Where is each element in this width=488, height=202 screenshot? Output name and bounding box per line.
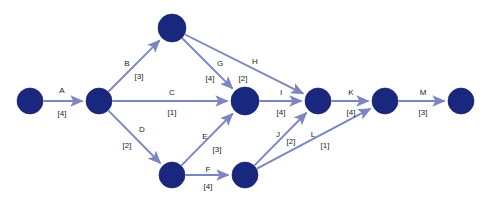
edge-cost-b: [3]	[135, 72, 144, 81]
edge-cost-l: [1]	[321, 141, 330, 150]
node-n9	[448, 88, 474, 114]
edge-j	[254, 113, 306, 166]
edge-d	[108, 111, 160, 164]
edge-cost-g: [4]	[206, 74, 215, 83]
edge-label-m: M	[420, 88, 427, 97]
node-n5	[159, 162, 185, 188]
edge-cost-h: [2]	[239, 74, 248, 83]
edge-label-c: C	[169, 88, 175, 97]
edge-label-h: H	[252, 57, 258, 66]
node-n6	[232, 162, 258, 188]
edge-label-a: A	[59, 86, 65, 95]
network-graph-canvas: A[4]B[3]C[1]D[2]E[3]F[4]G[4]H[2]I[4]J[2]…	[0, 0, 488, 202]
node-n4	[231, 87, 259, 115]
edge-cost-j: [2]	[287, 137, 296, 146]
edge-label-d: D	[139, 125, 145, 134]
node-n2	[86, 88, 112, 114]
edge-label-g: G	[217, 59, 223, 68]
edge-cost-e: [3]	[213, 145, 222, 154]
edge-cost-m: [3]	[419, 108, 428, 117]
node-n7	[305, 88, 331, 114]
edge-label-f: F	[206, 165, 211, 174]
edge-label-l: L	[311, 130, 316, 139]
edge-cost-f: [4]	[204, 182, 213, 191]
edge-label-k: K	[348, 88, 354, 97]
node-n3	[158, 14, 186, 42]
network-diagram: A[4]B[3]C[1]D[2]E[3]F[4]G[4]H[2]I[4]J[2]…	[0, 0, 488, 202]
edge-cost-i: [4]	[277, 108, 286, 117]
edge-label-j: J	[276, 130, 280, 139]
edge-cost-a: [4]	[58, 109, 67, 118]
edge-label-e: E	[202, 132, 207, 141]
node-n1	[17, 88, 43, 114]
edge-b	[109, 40, 160, 91]
edge-label-i: I	[280, 88, 282, 97]
edge-h	[185, 34, 303, 93]
node-n8	[372, 88, 398, 114]
edge-cost-d: [2]	[123, 141, 132, 150]
edge-cost-k: [4]	[347, 108, 356, 117]
edge-label-b: B	[124, 59, 129, 68]
edge-cost-c: [1]	[168, 108, 177, 117]
